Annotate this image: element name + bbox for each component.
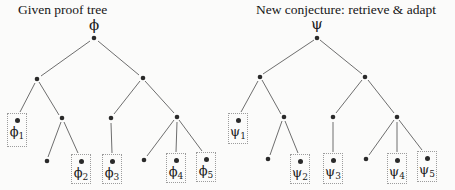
node-dot	[110, 159, 115, 164]
left-leaf-box-2: ϕ2	[71, 154, 91, 184]
node-dot	[331, 158, 336, 163]
node-dot	[35, 77, 40, 82]
edge	[39, 82, 59, 115]
left-tree-edges	[20, 41, 202, 157]
node-dot	[142, 158, 147, 163]
edge	[176, 122, 177, 152]
right-leaf-box-4: ψ4	[387, 153, 407, 184]
edge	[98, 41, 139, 75]
edge	[368, 80, 394, 113]
node-dot	[92, 36, 97, 41]
edge	[263, 40, 314, 74]
node-dot	[175, 115, 180, 120]
edge	[262, 80, 281, 114]
leaf-label: ϕ3	[105, 166, 120, 182]
right-tree-edges	[241, 40, 422, 155]
right-leaf-box-1: ψ1	[228, 113, 248, 144]
right-leaf-box-3: ψ3	[323, 153, 343, 184]
leaf-label: ϕ5	[199, 164, 214, 180]
leaf-label: ψ5	[419, 163, 435, 179]
left-tree-node-dots	[35, 36, 180, 164]
left-leaf-box-5: ϕ5	[196, 152, 216, 182]
edge	[41, 41, 90, 76]
node-dot	[315, 36, 320, 41]
edge	[399, 120, 422, 150]
leaf-label: ψ4	[389, 165, 405, 181]
node-dot	[266, 157, 271, 162]
leaf-label: ψ1	[230, 125, 246, 141]
leaf-label: ϕ1	[10, 125, 25, 141]
node-dot	[174, 158, 179, 163]
node-dot	[331, 115, 336, 120]
node-dot	[141, 76, 146, 81]
node-dot	[258, 75, 263, 80]
node-dot	[79, 159, 84, 164]
edge	[336, 80, 362, 113]
proof-tree-figure: Given proof tree New conjecture: retriev…	[0, 0, 455, 190]
edge	[114, 81, 140, 114]
leaf-label: ϕ2	[74, 166, 89, 182]
node-dot	[282, 115, 287, 120]
edge	[285, 121, 298, 153]
node-dot	[363, 75, 368, 80]
edge	[179, 120, 202, 151]
right-leaf-box-2: ψ2	[290, 154, 310, 184]
leaf-label: ψ2	[292, 166, 308, 182]
node-dot	[395, 115, 400, 120]
edge	[320, 40, 362, 74]
node-dot	[236, 118, 241, 123]
edge	[270, 121, 282, 155]
left-leaf-box-1: ϕ1	[7, 113, 27, 147]
leaf-label: ϕ4	[169, 165, 184, 181]
edge	[20, 83, 35, 112]
node-dot	[45, 159, 50, 164]
edge	[64, 122, 78, 153]
node-dot	[395, 158, 400, 163]
edge	[369, 120, 394, 155]
node-dot	[425, 156, 430, 161]
node-dot	[204, 157, 209, 162]
edge	[48, 122, 61, 157]
edge	[147, 120, 174, 156]
node-dot	[364, 157, 369, 162]
node-dot	[109, 116, 114, 121]
left-leaf-box-4: ϕ4	[166, 153, 186, 183]
node-dot	[298, 159, 303, 164]
node-dot	[60, 116, 65, 121]
edge	[145, 81, 174, 113]
node-dot	[15, 118, 20, 123]
edge	[111, 123, 112, 153]
edge	[241, 81, 258, 112]
leaf-label: ψ3	[325, 165, 341, 181]
right-leaf-box-5: ψ5	[417, 151, 437, 182]
left-leaf-box-3: ϕ3	[102, 154, 122, 184]
